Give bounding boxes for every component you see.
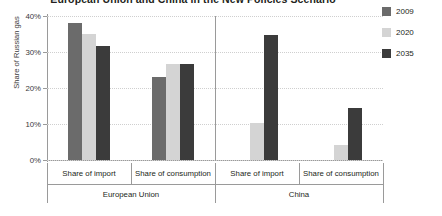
y-tick-label: 0% <box>30 156 41 165</box>
label-frame-right <box>383 163 384 203</box>
group-divider <box>215 163 216 203</box>
gridline <box>47 160 383 161</box>
category-divider <box>131 163 132 184</box>
group-label: China <box>215 185 383 203</box>
bar <box>250 123 264 160</box>
category-label: Share of import <box>215 163 299 183</box>
label-frame-left <box>47 163 48 203</box>
group-separator <box>215 16 216 160</box>
y-axis-title: Share of Russian gas <box>12 3 21 103</box>
bar <box>96 46 110 160</box>
legend-label-2035: 2035 <box>396 49 414 58</box>
legend-swatch-2009 <box>382 7 391 16</box>
bar <box>348 108 362 160</box>
category-label: Share of consumption <box>131 163 215 183</box>
legend-swatch-2020 <box>382 28 391 37</box>
y-tick-label: 40% <box>25 12 41 21</box>
legend-label-2009: 2009 <box>396 7 414 16</box>
y-tick-label: 10% <box>25 120 41 129</box>
bar <box>82 34 96 160</box>
bar <box>166 64 180 160</box>
bar <box>152 77 166 160</box>
legend-item[interactable]: 2020 <box>382 28 438 37</box>
category-label: Share of consumption <box>299 163 383 183</box>
group-separator <box>131 16 132 160</box>
category-row-rule <box>47 184 383 185</box>
bar <box>264 35 278 160</box>
legend-label-2020: 2020 <box>396 28 414 37</box>
y-tick-mark <box>43 160 47 161</box>
legend-item[interactable]: 2035 <box>382 49 438 58</box>
legend-swatch-2035 <box>382 49 391 58</box>
category-label: Share of import <box>47 163 131 183</box>
bar <box>180 64 194 160</box>
legend-item[interactable]: 2009 <box>382 7 438 16</box>
group-separator <box>299 16 300 160</box>
category-divider <box>299 163 300 184</box>
legend: 2009 2020 2035 <box>382 7 438 70</box>
bar <box>334 145 348 160</box>
y-tick-label: 20% <box>25 84 41 93</box>
bar <box>68 23 82 160</box>
y-tick-label: 30% <box>25 48 41 57</box>
plot-area: 0%10%20%30%40% <box>47 16 383 160</box>
group-label: European Union <box>47 185 215 203</box>
chart-title: European Union and China in the New Poli… <box>0 0 386 5</box>
chart-container: European Union and China in the New Poli… <box>0 0 442 216</box>
